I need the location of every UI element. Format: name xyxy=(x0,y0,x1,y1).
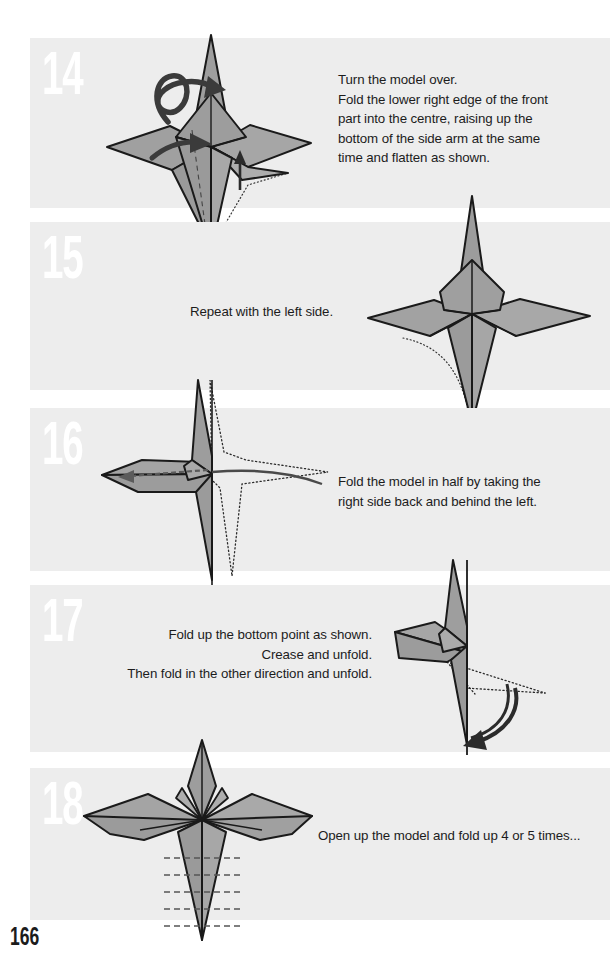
caption-step-18: Open up the model and fold up 4 or 5 tim… xyxy=(318,826,608,846)
step-number-16: 16 xyxy=(42,412,82,474)
page-number: 166 xyxy=(10,922,39,951)
caption-step-16: Fold the model in half by taking the rig… xyxy=(338,472,578,511)
step-number-14: 14 xyxy=(42,42,82,104)
caption-step-15: Repeat with the left side. xyxy=(190,302,390,322)
caption-step-14: Turn the model over. Fold the lower righ… xyxy=(338,70,588,168)
caption-step-17: Fold up the bottom point as shown. Creas… xyxy=(60,625,372,684)
step-number-15: 15 xyxy=(42,226,82,288)
step-number-18: 18 xyxy=(42,772,82,834)
origami-instruction-page: 14 xyxy=(0,0,616,963)
